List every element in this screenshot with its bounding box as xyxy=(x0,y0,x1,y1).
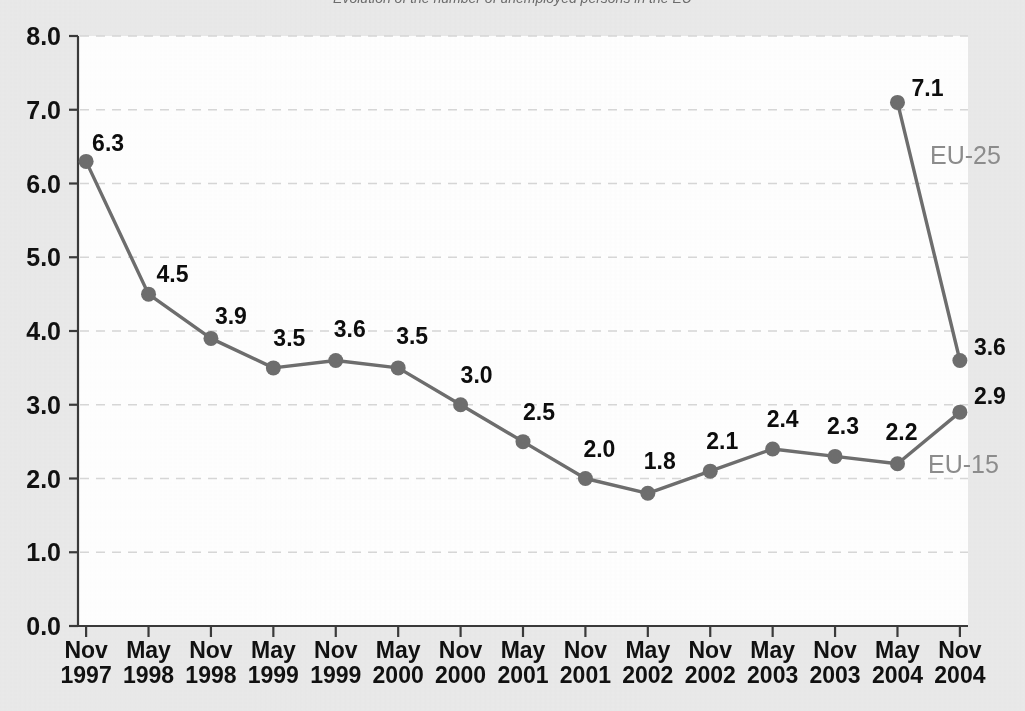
x-tick-label: Nov2004 xyxy=(934,637,985,688)
data-point-label: 2.4 xyxy=(767,406,799,432)
data-point-label: 2.9 xyxy=(974,383,1006,409)
x-tick-label: Nov2000 xyxy=(435,637,486,688)
x-tick-label: Nov2002 xyxy=(685,637,736,688)
x-tick-label: May2000 xyxy=(373,637,424,688)
data-point-label: 2.1 xyxy=(706,428,738,454)
data-point-label: 3.5 xyxy=(273,325,305,351)
x-tick-label: May1998 xyxy=(123,637,174,688)
data-point-label: 3.9 xyxy=(215,303,247,329)
data-point-marker xyxy=(578,471,593,486)
x-tick-label: May1999 xyxy=(248,637,299,688)
x-tick-label: Nov1997 xyxy=(61,637,112,688)
data-point-marker xyxy=(516,434,531,449)
y-axis-ticks xyxy=(69,36,78,626)
data-point-marker xyxy=(266,360,281,375)
data-point-marker xyxy=(890,95,905,110)
data-point-label: 2.0 xyxy=(583,436,615,462)
x-tick-label: Nov1999 xyxy=(310,637,361,688)
x-tick-label: May2004 xyxy=(872,637,923,688)
y-tick-label: 5.0 xyxy=(26,243,61,271)
y-tick-label: 6.0 xyxy=(26,170,61,198)
data-point-marker xyxy=(640,486,655,501)
data-point-label: 3.5 xyxy=(396,323,428,349)
data-point-label: 3.6 xyxy=(974,334,1006,360)
x-tick-label: May2001 xyxy=(497,637,548,688)
data-point-label: 6.3 xyxy=(92,130,124,156)
y-tick-label: 8.0 xyxy=(26,22,61,50)
data-point-label: 3.0 xyxy=(461,362,493,388)
data-point-marker xyxy=(391,360,406,375)
data-point-marker xyxy=(203,331,218,346)
data-point-marker xyxy=(141,287,156,302)
y-tick-label: 2.0 xyxy=(26,465,61,493)
data-point-label: 2.3 xyxy=(827,413,859,439)
y-tick-label: 1.0 xyxy=(26,538,61,566)
y-tick-label: 4.0 xyxy=(26,317,61,345)
data-point-marker xyxy=(952,405,967,420)
series-label-eu15: EU-15 xyxy=(928,450,999,478)
data-point-marker xyxy=(703,464,718,479)
data-point-marker xyxy=(890,456,905,471)
data-point-label: 3.6 xyxy=(334,316,366,342)
data-point-label: 1.8 xyxy=(644,448,676,474)
data-point-marker xyxy=(952,353,967,368)
y-tick-label: 7.0 xyxy=(26,96,61,124)
data-point-label: 4.5 xyxy=(157,261,189,287)
data-point-marker xyxy=(453,397,468,412)
data-point-marker xyxy=(328,353,343,368)
x-tick-label: Nov2001 xyxy=(560,637,611,688)
x-tick-label: Nov1998 xyxy=(185,637,236,688)
data-point-label: 7.1 xyxy=(911,75,943,101)
x-tick-label: May2003 xyxy=(747,637,798,688)
data-point-label: 2.5 xyxy=(523,399,555,425)
data-point-marker xyxy=(828,449,843,464)
y-axis-tick-labels: 0.01.02.03.04.05.06.07.08.0 xyxy=(26,22,61,640)
line-chart: 6.34.53.93.53.63.53.02.52.01.82.12.42.32… xyxy=(0,0,1025,711)
data-point-label: 2.2 xyxy=(885,419,917,445)
x-tick-label: Nov2003 xyxy=(809,637,860,688)
x-axis-tick-labels: Nov1997May1998Nov1998May1999Nov1999May20… xyxy=(61,637,986,688)
x-tick-label: May2002 xyxy=(622,637,673,688)
y-tick-label: 0.0 xyxy=(26,612,61,640)
series-label-eu25: EU-25 xyxy=(930,141,1001,169)
data-point-marker xyxy=(765,442,780,457)
x-axis-ticks xyxy=(86,626,960,637)
y-tick-label: 3.0 xyxy=(26,391,61,419)
